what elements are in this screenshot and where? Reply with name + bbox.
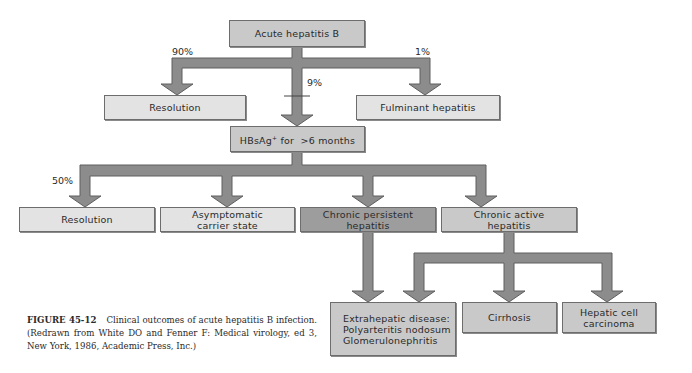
node-extrahepatic-disease: Extrahepatic disease: Polyarteritis nodo… [330,302,456,356]
node-hepatic-cell-carcinoma: Hepatic cell carcinoma [562,302,656,333]
node-acute-hepatitis-b: Acute hepatitis B [229,20,365,47]
hepatitis-b-outcome-diagram: Acute hepatitis B 90% 1% 9% Resolution F… [0,0,692,373]
arrow-level2-trunk [69,152,497,207]
pct-resolution-2: 50% [52,175,73,186]
arrow-active-branches [403,232,623,302]
node-hbsag-6-months: HBsAg+ for >6 months [230,126,365,152]
node-resolution-2: Resolution [19,207,155,232]
node-asymptomatic-carrier: Asymptomatic carrier state [160,207,295,232]
pct-chronic: 9% [307,77,322,88]
node-chronic-active-hepatitis: Chronic active hepatitis [441,207,577,232]
pct-fulminant: 1% [415,46,430,57]
figure-caption: FIGURE 45-12Clinical outcomes of acute h… [27,314,317,353]
node-chronic-persistent-hepatitis: Chronic persistent hepatitis [300,207,436,232]
arrow-persistent-to-extrahepatic [352,232,384,302]
node-resolution-1: Resolution [104,95,246,120]
figure-label: FIGURE 45-12 [27,315,96,325]
pct-resolution: 90% [172,46,193,57]
hbsag-label: HBsAg+ for >6 months [240,132,355,146]
node-cirrhosis: Cirrhosis [462,302,557,333]
node-fulminant-hepatitis: Fulminant hepatitis [356,95,500,120]
